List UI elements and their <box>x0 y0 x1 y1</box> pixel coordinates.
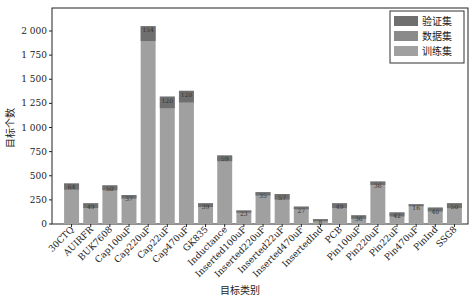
x-axis-label: 目标类别 <box>220 284 260 296</box>
bar-Pin470uF: 16 <box>409 204 424 224</box>
y-tick-label: 500 <box>30 171 47 181</box>
bar-top-label: 50 <box>451 203 459 210</box>
bar-top-label: 42 <box>393 212 401 219</box>
legend-swatch <box>394 16 418 26</box>
y-tick-label: 750 <box>30 147 47 157</box>
bar-Inductance: 59 <box>217 155 232 224</box>
bar-Cap100uF: 37 <box>122 195 137 224</box>
bar-Inserted220uF: 35 <box>256 192 271 224</box>
bar-top-label: 39 <box>202 203 210 210</box>
bar-top-label: 35 <box>259 192 267 199</box>
y-tick-label: 1 750 <box>21 50 47 60</box>
y-axis-label: 目标个数 <box>4 108 16 148</box>
bar-top-label: 57 <box>278 194 286 201</box>
bar-Inserted470uF: 27 <box>294 207 309 224</box>
y-tick-label: 1 500 <box>21 74 47 84</box>
bar-top-label: 120 <box>162 97 174 104</box>
bar-top-label: 27 <box>297 207 305 214</box>
bar-top-label: 64 <box>68 183 76 190</box>
bar-Pin100uF: 36 <box>351 215 366 224</box>
bar-SSG8: 50 <box>447 203 462 224</box>
bar-PinInd: 40 <box>428 208 443 224</box>
bar-top-label: 36 <box>355 215 363 222</box>
bar-top-label: 36 <box>374 182 382 189</box>
x-axis: 30CTQAUIRFRBUK7608Cap100uFCap220uFCap22u… <box>46 224 459 279</box>
x-tick-label: SSG8 <box>434 224 459 249</box>
y-axis: 02505007501 0001 2501 5001 7502 000 <box>21 26 52 229</box>
legend: 验证集数据集训练集 <box>390 11 464 63</box>
bar-top-label: 154 <box>142 26 154 33</box>
bar-Cap470uF: 120 <box>179 91 194 224</box>
bar-Inserted100uF: 23 <box>236 210 251 224</box>
bar-PCB: 49 <box>332 203 347 224</box>
legend-label: 数据集 <box>422 30 452 42</box>
bar-top-label: 23 <box>240 210 248 217</box>
bar-BUK7608: 50 <box>102 185 117 224</box>
bar-Inserted22uF: 57 <box>275 194 290 224</box>
bar-top-label: 49 <box>336 203 344 210</box>
y-tick-label: 1 250 <box>21 98 47 108</box>
y-tick-label: 250 <box>30 195 47 205</box>
bar-Pin220uF: 36 <box>370 182 385 224</box>
bar-Cap22uF: 120 <box>160 97 175 224</box>
legend-swatch <box>394 31 418 41</box>
y-tick-label: 0 <box>41 219 47 229</box>
bar-top-label: 40 <box>431 208 439 215</box>
bar-GK835: 39 <box>198 203 213 224</box>
y-tick-label: 1 000 <box>21 123 47 133</box>
bar-top-label: 16 <box>412 204 420 211</box>
legend-label: 训练集 <box>422 45 452 57</box>
legend-swatch <box>394 46 418 56</box>
bar-Pin22uF: 42 <box>390 212 405 224</box>
legend-label: 验证集 <box>422 15 452 27</box>
bar-top-label: 120 <box>181 91 193 98</box>
bar-AUIRFR: 49 <box>83 203 98 224</box>
y-tick-label: 2 000 <box>21 26 47 36</box>
bar-top-label: 59 <box>221 155 229 162</box>
bar-30CTQ: 64 <box>64 183 79 224</box>
bar-top-label: 49 <box>87 203 95 210</box>
bar-Cap220uF: 154 <box>141 26 156 224</box>
bar-top-label: 50 <box>106 185 114 192</box>
stacked-bar-chart: 6449503715412012039592335572784936364216… <box>0 0 471 300</box>
bar-top-label: 37 <box>125 195 133 202</box>
